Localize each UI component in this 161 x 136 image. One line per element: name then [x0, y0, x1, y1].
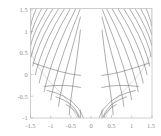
x-axis-tick-labels: -1.5 -1 -0.5 0 0.5 1 1.5 [25, 122, 155, 129]
x-tick-label: 1 [130, 122, 133, 129]
y-axis-tick-labels: -1 -0.5 0 0.5 1 1.5 [17, 6, 27, 121]
x-axis-ticks [31, 115, 153, 118]
x-tick-label: 0.5 [108, 122, 116, 129]
y-tick-label: -0.5 [17, 93, 27, 100]
y-tick-label: 0 [24, 71, 27, 78]
x-tick-label: 1.5 [147, 122, 155, 129]
contour-family-lower [33, 63, 149, 118]
x-tick-label: 0 [90, 122, 93, 129]
contour-plot-svg: -1.5 -1 -0.5 0 0.5 1 1.5 -1 -0.5 0 0.5 1… [0, 0, 161, 136]
x-tick-label: -1 [48, 122, 53, 129]
contour-plot-figure: -1.5 -1 -0.5 0 0.5 1 1.5 -1 -0.5 0 0.5 1… [0, 0, 161, 136]
y-tick-label: 1.5 [20, 6, 28, 13]
contour-family-upper-left [31, 9, 81, 115]
x-tick-label: -1.5 [25, 122, 35, 129]
contour-family-upper-right [102, 9, 152, 115]
y-tick-label: 0.5 [20, 49, 28, 56]
x-tick-label: -0.5 [66, 122, 76, 129]
y-tick-label: -1 [22, 114, 27, 121]
y-tick-label: 1 [24, 28, 27, 35]
